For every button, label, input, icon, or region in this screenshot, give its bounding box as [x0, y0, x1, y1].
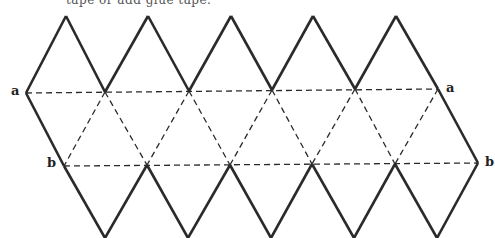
label-b-right: b — [485, 154, 494, 169]
label-a-right: a — [446, 80, 454, 95]
icosahedron-net-diagram — [0, 0, 495, 238]
label-b-left: b — [47, 155, 56, 170]
label-a-left: a — [11, 83, 19, 98]
fold-lines — [26, 89, 478, 166]
